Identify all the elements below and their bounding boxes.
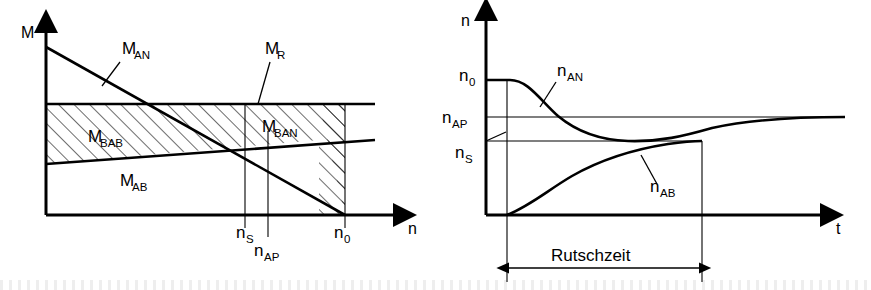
svg-text:n: n [442, 108, 451, 127]
x-axis-label-t: t [836, 220, 841, 237]
value-label-n-s: n S [455, 143, 473, 165]
svg-text:AN: AN [567, 71, 583, 83]
label-m-ab: M AB [120, 171, 148, 193]
svg-text:AP: AP [452, 118, 468, 130]
label-m-an: M AN [122, 39, 150, 61]
svg-text:n: n [334, 223, 343, 242]
y-axis-label-m: M [21, 24, 34, 41]
svg-text:BAN: BAN [274, 127, 298, 139]
label-m-r: M R [265, 39, 285, 61]
svg-text:n: n [236, 223, 245, 242]
svg-text:S: S [465, 153, 473, 165]
diagram-canvas: M n M AN M R M BAB M BAN M AB n S n [0, 0, 871, 290]
svg-text:AB: AB [660, 187, 676, 199]
label-n-ab: n AB [650, 177, 676, 199]
svg-text:n: n [459, 66, 468, 85]
y-axis-label-n: n [461, 12, 470, 29]
svg-text:BAB: BAB [100, 137, 123, 149]
tick-label-n-s: n S [236, 223, 254, 245]
svg-text:AN: AN [134, 49, 150, 61]
svg-text:AP: AP [264, 251, 280, 263]
svg-text:0: 0 [344, 233, 350, 245]
label-n-an: n AN [557, 61, 583, 83]
leader-n-s [486, 132, 506, 141]
svg-text:n: n [254, 241, 263, 260]
svg-text:R: R [277, 49, 285, 61]
dimension-label-rutschzeit: Rutschzeit [551, 246, 631, 265]
chart-speed-time: n t n 0 n AP n S n AN n AB Rutschzeit [442, 12, 845, 282]
value-label-n-ap: n AP [442, 108, 468, 130]
tick-label-n-0: n 0 [334, 223, 350, 245]
svg-text:S: S [246, 233, 254, 245]
figure-two-diagrams: M n M AN M R M BAB M BAN M AB n S n [0, 0, 871, 290]
dimension-rutschzeit: Rutschzeit [509, 246, 700, 268]
leader-n-an [540, 82, 556, 107]
chart-torque-speed: M n M AN M R M BAB M BAN M AB n S n [21, 24, 417, 263]
leader-m-r [258, 62, 270, 104]
tick-label-n-ap: n AP [254, 241, 280, 263]
svg-text:n: n [455, 143, 464, 162]
curve-n-ab [507, 141, 702, 215]
curve-n-an [486, 80, 845, 141]
svg-text:n: n [650, 177, 659, 196]
svg-text:0: 0 [469, 76, 475, 88]
svg-text:n: n [557, 61, 566, 80]
scan-artifact-strip [0, 280, 871, 290]
value-label-n-0: n 0 [459, 66, 475, 88]
svg-text:AB: AB [132, 181, 148, 193]
x-axis-label-n: n [408, 220, 417, 237]
